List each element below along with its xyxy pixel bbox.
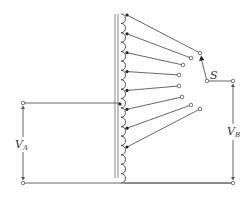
output-terminal-bottom[interactable]	[231, 181, 235, 185]
transformer-winding	[121, 14, 126, 183]
va-label: VA	[15, 138, 28, 152]
tap-contact-1[interactable]	[198, 51, 202, 55]
vb-label: VB	[227, 125, 240, 139]
vb-arrowhead-down	[231, 177, 235, 181]
tap-dot-1	[125, 13, 128, 16]
input-junction-dot	[118, 102, 121, 105]
tap-contact-7[interactable]	[189, 103, 193, 107]
tap-dot-8	[125, 145, 128, 148]
input-terminal-bottom[interactable]	[21, 181, 25, 185]
output-terminal-top[interactable]	[231, 79, 235, 83]
tap-dot-3	[125, 51, 128, 54]
switch-label: S	[210, 69, 218, 82]
autotransformer-diagram: VA VB S	[0, 0, 247, 199]
tap-dot-6	[125, 108, 128, 111]
transformer-core	[115, 14, 118, 178]
vb-arrowhead-up	[231, 84, 235, 88]
tap-lead-6	[127, 97, 182, 109]
tap-contact-2[interactable]	[189, 56, 193, 60]
switch-pivot[interactable]	[205, 79, 209, 83]
va-arrowhead-down	[21, 177, 25, 181]
tap-leads	[125, 13, 201, 148]
tap-lead-5	[127, 86, 179, 90]
input-terminal-top[interactable]	[21, 101, 25, 105]
tap-dot-7	[125, 127, 128, 130]
tap-lead-3	[127, 53, 183, 65]
tap-dot-4	[125, 70, 128, 73]
tap-contact-5[interactable]	[177, 84, 181, 88]
selector-switch[interactable]: S	[199, 56, 218, 83]
tap-contact-8[interactable]	[198, 107, 202, 111]
winding-coil	[121, 14, 126, 183]
tap-dot-5	[125, 89, 128, 92]
tap-dot-2	[125, 32, 128, 35]
tap-contact-6[interactable]	[180, 95, 184, 99]
tap-contact-3[interactable]	[181, 63, 185, 67]
switch-arm[interactable]	[202, 60, 208, 81]
switch-arrowhead	[199, 56, 204, 62]
va-arrowhead-up	[21, 106, 25, 110]
tap-lead-7	[127, 105, 191, 128]
tap-contact-4[interactable]	[177, 73, 181, 77]
tap-lead-4	[127, 72, 179, 75]
